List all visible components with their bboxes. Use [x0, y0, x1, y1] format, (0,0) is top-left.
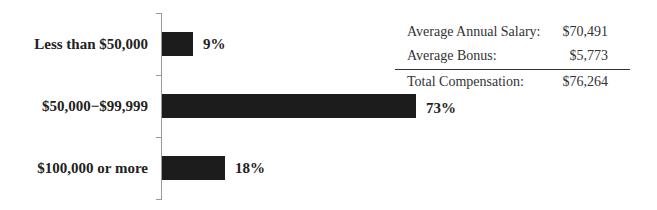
axis-tick: [156, 75, 162, 76]
bar-100k-or-more: [162, 156, 225, 180]
value-label: 73%: [426, 96, 456, 120]
axis-tick: [156, 199, 162, 200]
bonus-value: $5,773: [570, 44, 609, 68]
salary-row: Average Annual Salary: $70,491: [395, 20, 630, 44]
total-value: $76,264: [563, 70, 609, 94]
axis-tick: [156, 13, 162, 14]
compensation-summary-table: Average Annual Salary: $70,491 Average B…: [395, 20, 630, 94]
salary-label: Average Annual Salary:: [407, 20, 540, 44]
total-label: Total Compensation:: [407, 70, 524, 94]
total-row: Total Compensation: $76,264: [395, 70, 630, 94]
category-label: $50,000−$99,999: [0, 94, 148, 118]
bonus-row: Average Bonus: $5,773: [395, 44, 630, 68]
axis-tick: [156, 137, 162, 138]
salary-value: $70,491: [563, 20, 609, 44]
category-label: Less than $50,000: [0, 32, 148, 56]
category-label: $100,000 or more: [0, 156, 148, 180]
value-label: 9%: [203, 32, 226, 56]
value-label: 18%: [235, 156, 265, 180]
bar-50k-to-99k: [162, 94, 416, 118]
bonus-label: Average Bonus:: [407, 44, 497, 68]
bar-less-than-50k: [162, 32, 193, 56]
